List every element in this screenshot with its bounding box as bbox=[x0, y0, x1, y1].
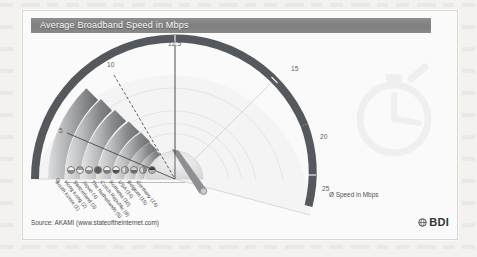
flag-belgium bbox=[139, 166, 147, 174]
chart-footer: Source: AKAMI (www.stateoftheinternet.co… bbox=[31, 219, 449, 233]
flag-czech-republic bbox=[112, 166, 120, 174]
source-note: Source: AKAMI (www.stateoftheinternet.co… bbox=[31, 219, 159, 226]
flag-netherlands bbox=[103, 166, 111, 174]
flag-south-korea bbox=[67, 166, 75, 174]
axis-caption: Ø Speed in Mbps bbox=[329, 191, 378, 198]
brand-logo: BDI bbox=[418, 216, 449, 228]
flag-japan bbox=[94, 166, 102, 174]
flag-hong-kong bbox=[76, 166, 84, 174]
flag-switzerland bbox=[85, 166, 93, 174]
globe-icon bbox=[418, 218, 427, 227]
flag-usa bbox=[130, 166, 138, 174]
category-axis: South Korea (1) Hong Kong (2) Switzerlan… bbox=[23, 11, 457, 239]
chart-card: Average Broadband Speed in Mbps bbox=[22, 10, 458, 240]
flag-germany bbox=[148, 166, 156, 174]
flag-romania bbox=[121, 166, 129, 174]
brand-text: BDI bbox=[429, 216, 449, 228]
